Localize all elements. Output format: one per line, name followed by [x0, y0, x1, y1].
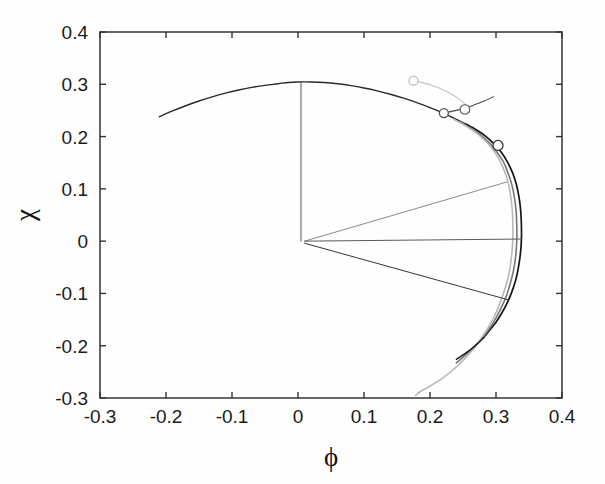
y-tick-label: -0.3: [55, 388, 88, 409]
x-tick-label: 0.4: [549, 406, 576, 427]
x-tick-label: 0.1: [351, 406, 377, 427]
x-tick-label: 0.3: [483, 406, 509, 427]
marker-light-outer: [409, 76, 418, 85]
figure-container: -0.3-0.2-0.100.10.20.30.4-0.3-0.2-0.100.…: [0, 0, 605, 484]
y-tick-label: 0.1: [62, 179, 88, 200]
curve-dark-tail-lower: [456, 338, 483, 359]
curve-radial-line-middle: [305, 239, 522, 241]
marker-arc-lower: [493, 140, 503, 150]
y-tick-label: 0.3: [62, 74, 88, 95]
y-tick-label: -0.1: [55, 283, 88, 304]
curve-leader-light-marker: [414, 81, 467, 107]
x-tick-label: -0.2: [150, 406, 183, 427]
x-tick-label: -0.1: [216, 406, 249, 427]
curve-radial-line-upper: [305, 182, 507, 241]
y-tick-label: 0.2: [62, 127, 88, 148]
marker-dark-inner: [439, 109, 448, 118]
y-tick-label: 0: [77, 231, 88, 252]
x-tick-label: 0: [293, 406, 304, 427]
marker-arc-upper: [460, 105, 470, 115]
x-axis-title: ϕ: [324, 442, 338, 472]
curve-radial-line-lower: [305, 243, 508, 299]
y-tick-label: 0.4: [62, 22, 89, 43]
series-group: [159, 76, 521, 395]
plot-frame: [100, 32, 562, 398]
y-axis-title: χ: [10, 209, 40, 222]
x-tick-label: -0.3: [84, 406, 117, 427]
x-tick-label: 0.2: [417, 406, 443, 427]
curve-upper-branch-dark: [159, 82, 466, 124]
plot-canvas: -0.3-0.2-0.100.10.20.30.4-0.3-0.2-0.100.…: [0, 0, 605, 484]
curve-middle-gray-arc: [456, 122, 516, 363]
y-tick-label: -0.2: [55, 336, 88, 357]
